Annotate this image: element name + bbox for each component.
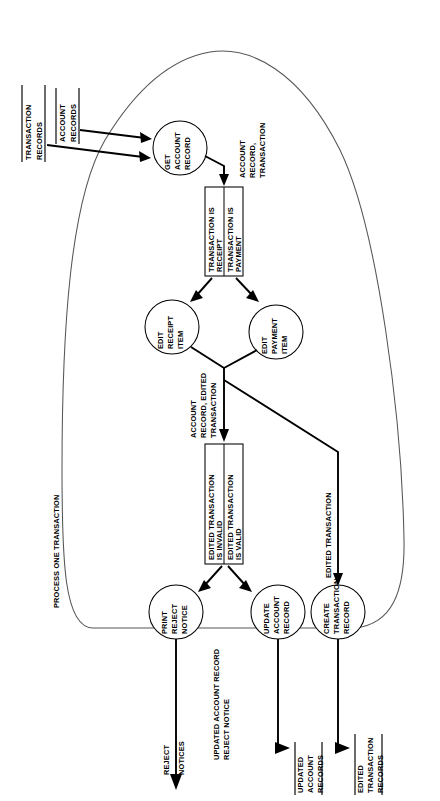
output-edited-transaction-records: EDITED TRANSACTION RECORDS: [335, 639, 385, 795]
output-arrowhead: [170, 774, 182, 790]
decision-option-payment-line2: PAYMENT: [234, 236, 243, 272]
arrow-transaction-records: [47, 145, 143, 157]
process-label-line3: RECORD: [183, 137, 192, 170]
branch-to-update-account: [228, 566, 246, 586]
flow-label-line1: ACCOUNT: [189, 400, 198, 438]
decision-option-receipt-line2: RECEIPT: [215, 239, 224, 272]
output-arrowhead: [335, 742, 350, 754]
edit-join: [191, 347, 257, 368]
diagram-canvas: PROCESS ONE TRANSACTION TRANSACTION RECO…: [0, 0, 440, 801]
join-from-payment: [224, 350, 257, 368]
arrowhead-transaction-records: [139, 151, 151, 162]
arrow-account-records: [80, 130, 145, 138]
branch-to-print-reject: [204, 566, 222, 586]
process-print-reject-notice[interactable]: PRINT REJECT NOTICE: [149, 585, 203, 639]
decision-edited-transaction-validity[interactable]: EDITED TRANSACTION IS INVALID EDITED TRA…: [205, 444, 243, 564]
flow-label-line2: RECORD,: [248, 143, 257, 178]
output-label-line1: EDITED: [356, 764, 365, 793]
decision-option-invalid-line2: IS INVALID: [215, 520, 224, 560]
process-label-line3: ITEM: [280, 336, 289, 354]
input-transaction-records: TRANSACTION RECORDS: [22, 85, 45, 162]
output-updated-account-records: UPDATED ACCOUNT RECORDS: [275, 639, 325, 795]
process-label-line2: ACCOUNT: [173, 132, 182, 170]
process-label-line3: NOTICE: [180, 605, 189, 634]
output-arrowhead: [275, 742, 290, 754]
label-updated-account-record-reject-notice: UPDATED ACCOUNT RECORD REJECT NOTICE: [212, 648, 231, 760]
flow-label-line3: TRANSACTION: [209, 383, 218, 438]
process-label-line1: EDIT: [156, 331, 165, 349]
process-edit-receipt-item[interactable]: EDIT RECEIPT ITEM: [145, 300, 199, 354]
flow-label-line3: TRANSACTION: [258, 123, 267, 178]
output-label-line2: TRANSACTION: [366, 738, 375, 793]
decision-transaction-type[interactable]: TRANSACTION IS RECEIPT TRANSACTION IS PA…: [205, 187, 243, 276]
input-label-line1: ACCOUNT: [58, 104, 67, 142]
boundary-label: PROCESS ONE TRANSACTION: [52, 495, 61, 609]
input-label-line2: RECORDS: [35, 122, 44, 160]
process-label-line1: PRINT: [160, 611, 169, 634]
join-from-receipt: [191, 347, 224, 368]
output-label-line1: REJECT: [162, 745, 171, 775]
process-label-line2: TRANSACTION: [332, 579, 341, 634]
process-label-line1: EDIT: [260, 336, 269, 354]
decision1-branches: [190, 278, 259, 302]
output-label-line1: UPDATED: [296, 756, 305, 793]
flow-arrowhead: [219, 174, 229, 186]
arrowhead-account-records: [140, 132, 152, 143]
label-line2: REJECT NOTICE: [222, 699, 231, 760]
flow-account-record-edited-transaction: ACCOUNT RECORD, EDITED TRANSACTION: [189, 368, 229, 442]
process-label-line2: REJECT: [170, 604, 179, 634]
branch-to-receipt-arrowhead: [190, 290, 203, 302]
process-create-transaction-record[interactable]: CREATE TRANSACTION RECORD: [311, 579, 365, 639]
input-account-records: ACCOUNT RECORDS: [56, 88, 79, 144]
process-get-account-record[interactable]: GET ACCOUNT RECORD: [153, 121, 207, 175]
output-label-line2: ACCOUNT: [306, 755, 315, 793]
input-label-line1: TRANSACTION: [24, 105, 33, 160]
process-label-line2: RECEIPT: [166, 316, 175, 349]
process-label-line2: PAYMENT: [270, 318, 279, 354]
flow-label: EDITED TRANSACTION: [324, 492, 333, 578]
process-label-line2: ACCOUNT: [272, 596, 281, 634]
flow-arrowhead: [219, 429, 229, 442]
decision2-branches: [198, 566, 252, 592]
flow-account-record-transaction: ACCOUNT RECORD, TRANSACTION: [205, 123, 267, 186]
process-update-account-record[interactable]: UPDATE ACCOUNT RECORD: [251, 585, 305, 639]
output-label-line3: RECORDS: [376, 755, 385, 793]
process-label-line1: UPDATE: [262, 603, 271, 634]
output-label-line2: NOTICES: [177, 741, 186, 775]
label-line1: UPDATED ACCOUNT RECORD: [212, 648, 221, 760]
output-label-line3: RECORDS: [316, 755, 325, 793]
output-reject-notices: REJECT NOTICES: [162, 639, 186, 790]
flow-label-line1: ACCOUNT: [238, 140, 247, 178]
input-label-line2: RECORDS: [69, 104, 78, 142]
flow-label-line2: RECORD, EDITED: [199, 372, 208, 438]
process-label-line3: ITEM: [176, 331, 185, 349]
process-label-line1: CREATE: [322, 603, 331, 634]
decision-option-valid-line2: IS VALID: [234, 528, 243, 560]
process-label-line1: GET: [163, 154, 172, 170]
process-label-line3: RECORD: [282, 601, 291, 634]
structure-chart-svg: PROCESS ONE TRANSACTION TRANSACTION RECO…: [0, 0, 440, 801]
process-label-line3: RECORD: [342, 601, 351, 634]
